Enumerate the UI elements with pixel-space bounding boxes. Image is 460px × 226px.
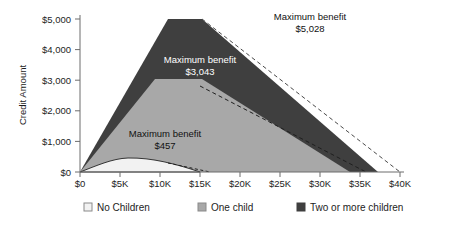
legend-label-two-or-more-children: Two or more children bbox=[310, 202, 403, 213]
legend-label-one-child: One child bbox=[211, 202, 253, 213]
x-axis-ticks bbox=[80, 172, 400, 177]
eitc-credit-chart: $5,000 $4,000 $3,000 $2,000 $1,000 $0 $0… bbox=[0, 0, 460, 226]
y-tick-label-3000: $3,000 bbox=[42, 75, 71, 86]
x-tick-label-20k: $20K bbox=[229, 178, 252, 189]
x-tick-label-30k: $30K bbox=[309, 178, 332, 189]
x-tick-label-40k: $40K bbox=[389, 178, 412, 189]
x-tick-label-5k: $5K bbox=[112, 178, 130, 189]
legend-label-no-children: No Children bbox=[97, 202, 150, 213]
y-tick-label-0: $0 bbox=[60, 167, 71, 178]
y-tick-label-5000: $5,000 bbox=[42, 14, 71, 25]
legend-item-two-or-more-children[interactable]: Two or more children bbox=[297, 202, 403, 213]
x-tick-label-10k: $10K bbox=[149, 178, 172, 189]
annotation-no-children-line1: Maximum benefit bbox=[129, 128, 202, 139]
x-tick-label-25k: $25K bbox=[269, 178, 292, 189]
legend-item-no-children[interactable]: No Children bbox=[84, 202, 150, 213]
legend-swatch-two-or-more-children bbox=[297, 203, 305, 211]
chart-svg: $5,000 $4,000 $3,000 $2,000 $1,000 $0 $0… bbox=[0, 0, 460, 226]
y-tick-label-1000: $1,000 bbox=[42, 136, 71, 147]
legend-swatch-one-child bbox=[198, 203, 206, 211]
legend: No Children One child Two or more childr… bbox=[84, 202, 403, 213]
y-tick-label-4000: $4,000 bbox=[42, 44, 71, 55]
annotation-one-child-line2: $3,043 bbox=[185, 66, 214, 77]
x-tick-label-0: $0 bbox=[75, 178, 86, 189]
legend-item-one-child[interactable]: One child bbox=[198, 202, 253, 213]
annotation-no-children-line2: $457 bbox=[154, 140, 175, 151]
annotation-two-or-more-line1: Maximum benefit bbox=[274, 11, 347, 22]
y-axis-title: Credit Amount bbox=[17, 65, 28, 126]
y-tick-label-2000: $2,000 bbox=[42, 105, 71, 116]
annotation-one-child-line1: Maximum benefit bbox=[164, 54, 237, 65]
annotation-two-or-more-line2: $5,028 bbox=[295, 23, 324, 34]
x-tick-label-35k: $35K bbox=[349, 178, 372, 189]
x-tick-label-15k: $15K bbox=[189, 178, 212, 189]
legend-swatch-no-children bbox=[84, 203, 92, 211]
y-axis-ticks bbox=[75, 19, 80, 172]
